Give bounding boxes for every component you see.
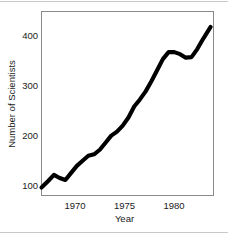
plot-frame [42, 12, 214, 196]
y-tick-label-300: 300 [22, 80, 38, 91]
y-tick-label-200: 200 [22, 130, 38, 141]
figure-container: 100 200 300 400 1970 1975 1980 Year Numb… [0, 0, 228, 238]
series-line-number-of-scientists [42, 27, 211, 188]
x-axis-title: Year [115, 213, 134, 224]
y-tick-label-100: 100 [22, 180, 38, 191]
line-chart: 100 200 300 400 1970 1975 1980 Year Numb… [0, 0, 228, 238]
x-tick-label-1970: 1970 [64, 200, 85, 211]
chart-svg: 100 200 300 400 1970 1975 1980 Year Numb… [0, 0, 228, 238]
y-axis-title: Number of Scientists [6, 60, 17, 148]
y-tick-label-400: 400 [22, 30, 38, 41]
x-tick-label-1980: 1980 [163, 200, 184, 211]
x-tick-label-1975: 1975 [114, 200, 135, 211]
